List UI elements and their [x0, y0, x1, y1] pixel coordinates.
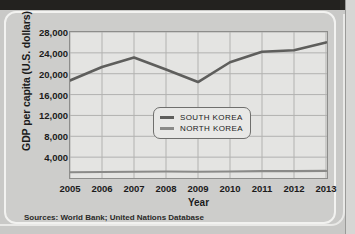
- legend-item-south-korea: SOUTH KOREA: [160, 112, 243, 123]
- chart-canvas: [70, 32, 327, 178]
- chart-card: GDP per capita (U.S. dollars) 4,0008,000…: [4, 11, 336, 224]
- legend-label-south-korea: SOUTH KOREA: [180, 113, 243, 122]
- legend-label-north-korea: NORTH KOREA: [180, 124, 243, 133]
- x-tick-label: 2013: [306, 183, 346, 194]
- legend-swatch-icon-south-korea: [160, 116, 174, 119]
- y-tick-label: 28,000: [26, 27, 68, 38]
- y-tick-label: 16,000: [26, 89, 68, 100]
- legend-swatch-icon-north-korea: [160, 127, 174, 130]
- chart-legend: SOUTH KOREA NORTH KOREA: [153, 107, 251, 139]
- source-note: Sources: World Bank; United Nations Data…: [24, 213, 204, 222]
- page-header-banner: [0, 0, 340, 10]
- series-line-north-korea: [70, 171, 326, 172]
- y-tick-label: 12,000: [26, 110, 68, 121]
- y-tick-label: 8,000: [26, 131, 68, 142]
- x-axis-tick-labels: 200520062007200820092010201120122013: [69, 183, 328, 197]
- plot-area: [69, 31, 328, 179]
- y-tick-label: 4,000: [26, 152, 68, 163]
- y-tick-label: 24,000: [26, 47, 68, 58]
- x-axis-title: Year: [69, 197, 328, 208]
- figure-page: GDP per capita (U.S. dollars) 4,0008,000…: [0, 0, 355, 234]
- legend-item-north-korea: NORTH KOREA: [160, 123, 243, 134]
- y-tick-label: 20,000: [26, 68, 68, 79]
- page-right-edge-strip: [345, 0, 355, 234]
- y-axis-tick-labels: 4,0008,00012,00016,00020,00024,00028,000: [26, 31, 68, 179]
